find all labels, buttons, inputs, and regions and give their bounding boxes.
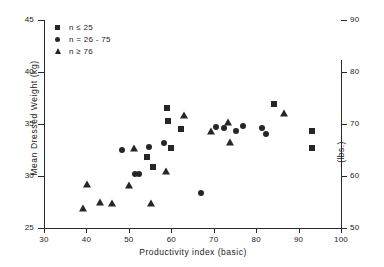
y-tick-label-secondary: 70	[350, 119, 359, 128]
legend-item: n ≤ 25	[55, 21, 111, 33]
x-tick-label: 60	[159, 235, 183, 244]
x-tick-mark	[171, 228, 172, 233]
x-tick-mark	[299, 228, 300, 233]
triangle-marker-icon	[55, 48, 69, 54]
data-point-triangle	[162, 167, 170, 174]
data-point-square	[150, 164, 156, 170]
circle-marker-icon	[55, 37, 69, 42]
data-point-square	[271, 101, 277, 107]
y-tick-label: 45	[4, 15, 34, 24]
data-point-triangle	[130, 144, 138, 151]
data-point-square	[309, 128, 315, 134]
data-point-circle	[119, 147, 125, 153]
data-point-triangle	[147, 200, 155, 207]
x-tick-label: 90	[287, 235, 311, 244]
data-point-triangle	[125, 182, 133, 189]
x-tick-mark	[214, 228, 215, 233]
data-point-square	[168, 145, 174, 151]
legend: n ≤ 25n = 26 - 75n ≥ 76	[55, 21, 111, 57]
y-tick-mark-secondary	[341, 72, 347, 73]
y-tick-label-secondary: 90	[350, 15, 359, 24]
x-tick-label: 30	[32, 235, 56, 244]
data-point-square	[144, 154, 150, 160]
data-point-triangle	[280, 109, 288, 116]
data-point-square	[165, 118, 171, 124]
y-tick-label: 25	[4, 223, 34, 232]
x-tick-mark	[44, 228, 45, 233]
legend-item-label: n = 26 - 75	[69, 35, 111, 44]
data-point-triangle	[224, 118, 232, 125]
scatter-plot-figure: 2530354045506070809030405060708090100 Me…	[0, 0, 384, 267]
data-point-triangle	[180, 111, 188, 118]
data-point-square	[178, 126, 184, 132]
data-point-triangle	[226, 138, 234, 145]
data-point-circle	[146, 144, 152, 150]
square-marker-icon	[55, 25, 69, 30]
data-point-square	[164, 105, 170, 111]
y-tick-mark	[38, 20, 44, 21]
x-tick-mark	[256, 228, 257, 233]
data-point-circle	[263, 131, 269, 137]
data-point-circle	[221, 125, 227, 131]
x-tick-mark	[86, 228, 87, 233]
data-point-circle	[259, 125, 265, 131]
data-point-circle	[161, 140, 167, 146]
y-tick-mark-secondary	[341, 20, 347, 21]
circle-glyph	[55, 37, 60, 42]
x-tick-mark	[129, 228, 130, 233]
y-axis-secondary-label: (lbs.)	[336, 122, 346, 182]
x-tick-label: 50	[117, 235, 141, 244]
y-axis-label: Mean Dressed Weight (kg)	[29, 33, 39, 203]
data-point-triangle	[83, 181, 91, 188]
y-axis-left-line	[44, 20, 45, 229]
y-tick-label-secondary: 60	[350, 171, 359, 180]
data-point-circle	[198, 190, 204, 196]
x-tick-mark	[341, 228, 342, 233]
data-point-square	[309, 145, 315, 151]
data-point-triangle	[207, 128, 215, 135]
legend-item: n = 26 - 75	[55, 33, 111, 45]
x-tick-label: 80	[244, 235, 268, 244]
data-point-circle	[240, 123, 246, 129]
x-tick-label: 100	[329, 235, 353, 244]
square-glyph	[55, 25, 60, 30]
data-point-triangle	[96, 199, 104, 206]
x-axis-label: Productivity index (basic)	[44, 247, 342, 257]
data-point-triangle	[108, 200, 116, 207]
legend-item-label: n ≥ 76	[69, 47, 93, 56]
data-point-triangle	[79, 205, 87, 212]
x-axis-line	[44, 228, 342, 229]
y-tick-label-secondary: 80	[350, 67, 359, 76]
data-point-circle	[136, 171, 142, 177]
y-tick-label-secondary: 50	[350, 223, 359, 232]
x-tick-label: 40	[74, 235, 98, 244]
triangle-glyph	[55, 48, 61, 54]
data-point-circle	[233, 128, 239, 134]
legend-item: n ≥ 76	[55, 45, 111, 57]
legend-item-label: n ≤ 25	[69, 23, 93, 32]
x-tick-label: 70	[202, 235, 226, 244]
